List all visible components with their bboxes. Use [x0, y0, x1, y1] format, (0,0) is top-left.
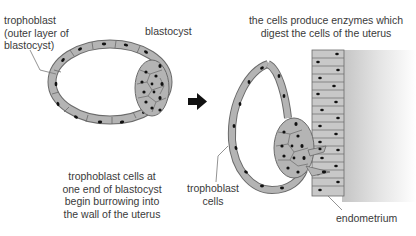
label-line: trophoblast: [186, 182, 240, 195]
endometrium-leader-line: [328, 196, 342, 210]
caption-left: trophoblast cells at one end of blastocy…: [56, 170, 168, 220]
caption-line: the cells produce enzymes which: [240, 14, 412, 27]
caption-line: begin burrowing into: [56, 195, 168, 208]
trophoblast-cells-leader-line: [216, 146, 228, 182]
uterine-tissue: [342, 50, 416, 202]
caption-line: trophoblast cells at: [56, 170, 168, 183]
caption-line: one end of blastocyst: [56, 183, 168, 196]
caption-line: the wall of the uterus: [56, 208, 168, 221]
right-arrow-icon: [188, 93, 207, 110]
label-line: trophoblast: [4, 14, 69, 27]
caption-line: digest the cells of the uterus: [240, 27, 412, 40]
trophoblast-cells-label: trophoblast cells: [186, 182, 240, 207]
label-line: blastocyst): [4, 39, 69, 52]
trophoblast-outer-label: trophoblast (outer layer of blastocyst): [4, 14, 69, 52]
blastocyst-left: [52, 41, 169, 124]
blastocyst-label: blastocyst: [145, 25, 192, 38]
label-line: cells: [186, 195, 240, 208]
label-line: (outer layer of: [4, 27, 69, 40]
endometrium-label: endometrium: [336, 212, 397, 225]
caption-right-top: the cells produce enzymes which digest t…: [240, 14, 412, 39]
